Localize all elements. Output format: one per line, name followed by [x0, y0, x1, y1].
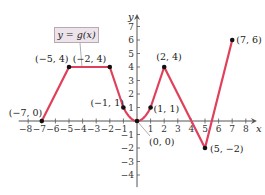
svg-text:−4: −4: [121, 170, 135, 180]
svg-text:(7, 6): (7, 6): [236, 34, 262, 45]
legend-label: y = g(x): [54, 27, 99, 43]
svg-text:x: x: [256, 123, 262, 134]
svg-text:4: 4: [128, 62, 134, 72]
svg-text:1: 1: [148, 124, 154, 134]
svg-text:2: 2: [161, 124, 167, 134]
ticks: −8−7−6−5−4−3−2−112345678−4−3−2−11234567: [19, 22, 249, 181]
svg-text:3: 3: [175, 124, 181, 134]
svg-text:(−5, 4): (−5, 4): [35, 53, 69, 64]
svg-text:−7: −7: [33, 124, 47, 134]
function-graph: xy −8−7−6−5−4−3−2−112345678−4−3−2−112345…: [0, 0, 265, 195]
svg-text:−6: −6: [46, 124, 60, 134]
svg-text:(−1, 1): (−1, 1): [90, 97, 124, 108]
svg-text:3: 3: [128, 76, 134, 86]
svg-text:(5, −2): (5, −2): [210, 143, 244, 154]
svg-text:5: 5: [202, 124, 208, 134]
svg-text:−3: −3: [121, 157, 135, 167]
svg-text:(−7, 0): (−7, 0): [9, 107, 43, 118]
svg-text:−1: −1: [121, 130, 134, 140]
svg-text:1: 1: [128, 103, 134, 113]
svg-text:−2: −2: [101, 124, 114, 134]
svg-text:2: 2: [128, 89, 134, 99]
svg-text:−2: −2: [121, 143, 134, 153]
svg-text:−5: −5: [60, 124, 74, 134]
svg-text:(−2, 4): (−2, 4): [73, 53, 107, 64]
svg-text:6: 6: [128, 35, 134, 45]
svg-text:−4: −4: [73, 124, 87, 134]
svg-text:7: 7: [229, 124, 235, 134]
svg-text:−3: −3: [87, 124, 101, 134]
svg-text:(0, 0): (0, 0): [149, 136, 175, 147]
svg-text:(1, 1): (1, 1): [154, 103, 180, 114]
svg-text:−8: −8: [19, 124, 33, 134]
labeled-points: (−7, 0)(−5, 4)(−2, 4)(−1, 1)(0, 0)(1, 1)…: [9, 34, 262, 154]
svg-text:7: 7: [128, 22, 134, 32]
svg-text:8: 8: [243, 124, 249, 134]
svg-text:5: 5: [128, 49, 134, 59]
svg-text:6: 6: [216, 124, 222, 134]
svg-text:(2, 4): (2, 4): [156, 51, 182, 62]
